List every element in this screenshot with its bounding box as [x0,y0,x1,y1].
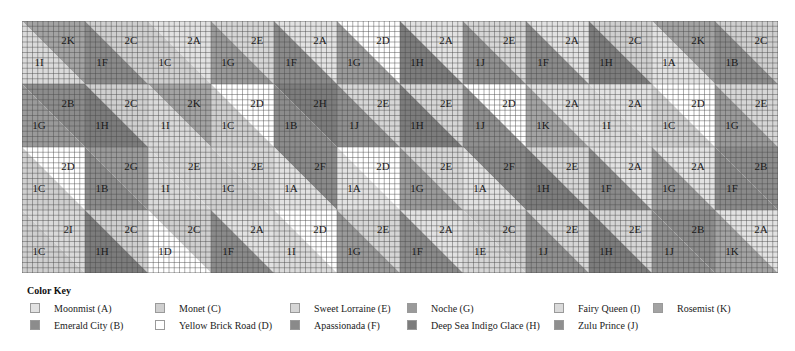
upper-label: 2A [565,34,579,46]
lower-label: 1H [95,119,109,131]
lower-label: 1C [663,119,676,131]
upper-label: 2C [125,223,138,235]
key-label-f: Apassionada (F) [314,320,380,331]
lower-label: 1G [221,56,235,68]
lower-label: 1I [286,245,296,257]
upper-label: 2D [691,97,705,109]
upper-label: 2C [125,34,138,46]
lower-label: 1H [410,119,424,131]
key-label-g: Noche (G) [431,303,473,314]
key-item-i: Fairy Queen (I) [554,302,640,314]
swatch-g [407,303,417,313]
swatch-a [30,303,40,313]
key-item-j: Zulu Prince (J) [554,319,638,331]
lower-label: 1J [349,119,360,131]
upper-label: 2C [125,97,138,109]
lower-label: 1E [474,245,487,257]
lower-label: 1J [538,245,549,257]
upper-label: 2K [187,97,201,109]
lower-label: 1B [726,56,739,68]
lower-label: 1I [601,119,611,131]
lower-label: 1B [96,182,109,194]
upper-label: 2C [629,34,642,46]
lower-label: 1F [411,245,423,257]
upper-label: 2K [691,34,705,46]
lower-label: 1D [158,245,172,257]
key-item-a: Moonmist (A) [30,302,112,314]
lower-label: 1C [222,119,235,131]
upper-label: 2E [503,34,516,46]
upper-label: 2A [313,34,327,46]
lower-label: 1J [475,56,486,68]
lower-label: 1F [285,56,297,68]
key-label-d: Yellow Brick Road (D) [179,320,272,331]
key-item-f: Apassionada (F) [290,319,380,331]
upper-label: 2A [439,34,453,46]
upper-label: 2E [566,223,579,235]
key-label-b: Emerald City (B) [54,320,123,331]
upper-label: 2E [251,160,264,172]
lower-label: 1G [347,56,361,68]
lower-label: 1G [32,119,46,131]
lower-label: 1F [537,56,549,68]
key-label-h: Deep Sea Indigo Glace (H) [431,320,540,331]
key-label-c: Monet (C) [179,303,221,314]
lower-label: 1H [410,56,424,68]
lower-label: 1A [662,56,676,68]
color-key-title: Color Key [27,285,71,296]
swatch-i [554,303,564,313]
upper-label: 2F [314,160,326,172]
lower-label: 1A [473,182,487,194]
swatch-j [554,320,564,330]
upper-label: 2A [565,97,579,109]
key-label-j: Zulu Prince (J) [578,320,638,331]
upper-label: 2E [629,223,642,235]
swatch-h [407,320,417,330]
upper-label: 2D [376,34,390,46]
upper-label: 2D [313,223,327,235]
lower-label: 1K [725,245,739,257]
lower-label: 1J [664,245,675,257]
upper-label: 2C [188,223,201,235]
upper-label: 2A [754,223,768,235]
lower-label: 1I [160,182,170,194]
upper-label: 2E [251,34,264,46]
lower-label: 1G [662,182,676,194]
lower-label: 1C [159,56,172,68]
key-item-g: Noche (G) [407,302,473,314]
lower-label: 1G [347,245,361,257]
lower-label: 1F [600,182,612,194]
key-item-e: Sweet Lorraine (E) [290,302,391,314]
key-item-k: Rosemist (K) [653,302,731,314]
upper-label: 2A [187,34,201,46]
lower-label: 1I [34,56,44,68]
lower-label: 1H [95,245,109,257]
lower-label: 1F [726,182,738,194]
upper-label: 2A [439,223,453,235]
lower-label: 1A [347,182,361,194]
upper-label: 2A [250,223,264,235]
upper-label: 2D [250,97,264,109]
upper-label: 2B [692,223,705,235]
swatch-k [653,303,663,313]
swatch-d [155,320,165,330]
upper-label: 2G [124,160,138,172]
upper-label: 2E [188,160,201,172]
lower-label: 1A [284,182,298,194]
key-label-a: Moonmist (A) [54,303,112,314]
lower-label: 1C [33,182,46,194]
upper-label: 2B [62,97,75,109]
upper-label: 2H [313,97,327,109]
key-item-d: Yellow Brick Road (D) [155,319,272,331]
upper-label: 2A [628,97,642,109]
lower-label: 1J [475,119,486,131]
lower-label: 1H [536,182,550,194]
swatch-e [290,303,300,313]
swatch-f [290,320,300,330]
key-item-c: Monet (C) [155,302,221,314]
key-item-b: Emerald City (B) [30,319,123,331]
upper-label: 2A [691,160,705,172]
lower-label: 1G [725,119,739,131]
upper-label: 2C [755,34,768,46]
upper-label: 2D [61,160,75,172]
